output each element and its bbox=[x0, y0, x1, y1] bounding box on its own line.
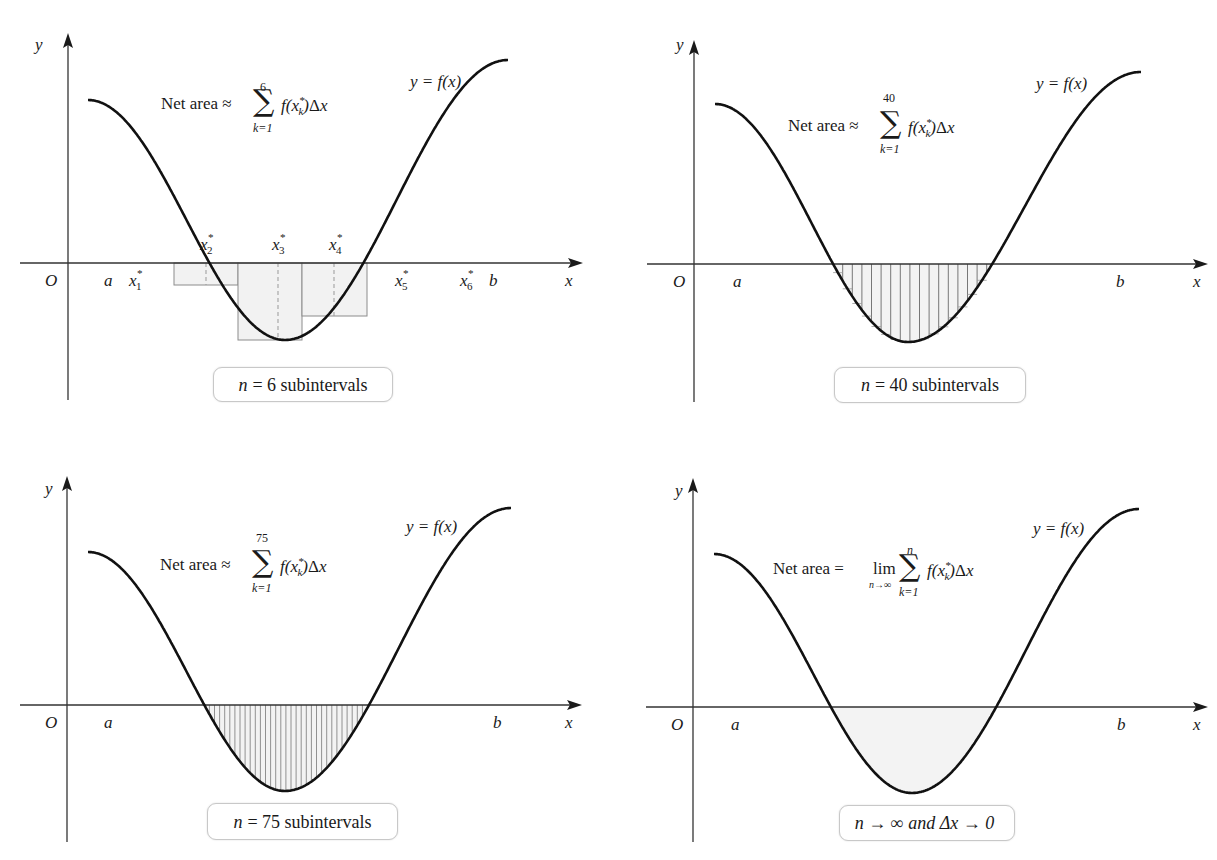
caption-limit: n → ∞ and Δx → 0 bbox=[839, 805, 1015, 841]
sum-upper-limit: n bbox=[907, 544, 913, 556]
x-axis-label: x bbox=[1193, 716, 1201, 733]
panel-limit-graph bbox=[0, 0, 1217, 860]
limit-subscript: n→∞ bbox=[869, 580, 891, 590]
a-label: a bbox=[731, 716, 740, 733]
formula-lhs: Net area = bbox=[773, 560, 844, 577]
origin-label: O bbox=[671, 716, 683, 733]
sum-lower-limit: k=1 bbox=[899, 586, 918, 598]
caption-text: n → ∞ and Δx → 0 bbox=[855, 814, 994, 832]
formula-summand: f(x*k)Δx bbox=[927, 560, 973, 582]
curve-label: y = f(x) bbox=[1033, 520, 1084, 537]
limit-operator: lim bbox=[873, 560, 896, 577]
riemann-sum-figure: y x O a b y = f(x) x*1 x*2 x*3 x*4 x*5 x… bbox=[0, 0, 1217, 860]
y-axis bbox=[688, 478, 698, 842]
b-label: b bbox=[1117, 716, 1126, 733]
y-axis-label: y bbox=[675, 482, 683, 499]
